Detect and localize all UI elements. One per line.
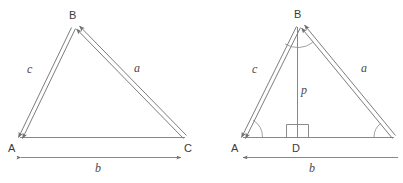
left-diagram-group: A B C c a b xyxy=(8,9,192,175)
right-side-label-a: a xyxy=(361,61,367,75)
right-side-label-c: c xyxy=(252,62,258,76)
right-side-c-vector xyxy=(242,27,301,139)
right-vector-a-line-outer xyxy=(302,28,393,139)
angle-arc-B xyxy=(285,43,312,48)
left-side-label-a: a xyxy=(134,61,140,75)
right-vertex-label-B: B xyxy=(294,8,301,20)
right-side-label-b: b xyxy=(309,161,315,175)
vector-a-line-outer xyxy=(77,29,184,139)
right-vector-c-line-outer xyxy=(246,28,301,139)
left-side-c-vector xyxy=(19,28,76,139)
right-vector-c-line-inner xyxy=(242,27,297,138)
right-side-label-p: p xyxy=(300,83,307,97)
diagram-canvas: A B C c a b xyxy=(0,0,403,183)
figure-root: A B C c a b xyxy=(0,0,403,183)
right-vertex-label-A: A xyxy=(231,142,239,154)
left-side-a-vector xyxy=(77,26,187,139)
right-vertex-label-D: D xyxy=(292,142,300,154)
vector-c-line-outer xyxy=(23,29,76,139)
left-vertex-label-C: C xyxy=(184,142,192,154)
angle-arc-C xyxy=(374,123,381,137)
left-side-label-b: b xyxy=(95,161,101,175)
right-vector-a-line-inner xyxy=(305,25,396,136)
left-vertex-label-B: B xyxy=(69,9,76,21)
right-side-a-vector xyxy=(302,25,396,139)
left-side-label-c: c xyxy=(27,62,33,76)
right-diagram-group: A B D c a p b xyxy=(231,8,398,175)
left-vertex-label-A: A xyxy=(8,142,16,154)
vector-a-line-inner xyxy=(80,26,187,136)
vector-c-line-inner xyxy=(19,28,72,138)
angle-arc-A xyxy=(253,120,262,137)
